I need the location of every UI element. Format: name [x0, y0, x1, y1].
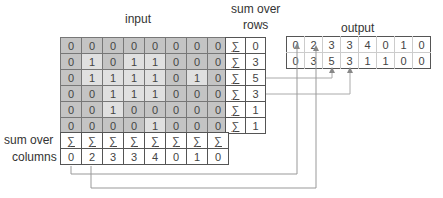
connector-col0-to-output — [71, 46, 297, 174]
connector-lines — [0, 0, 443, 198]
connector-row3-to-output — [266, 70, 350, 94]
connector-col1-to-output — [91, 48, 316, 188]
connector-row2-to-output — [266, 70, 332, 78]
